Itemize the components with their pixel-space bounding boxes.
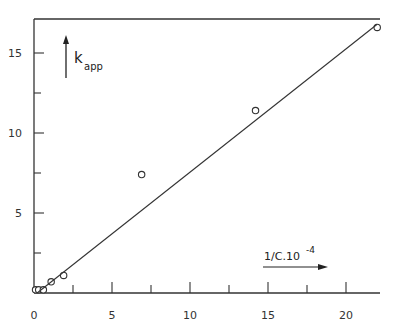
- y-arrowhead-icon: [63, 35, 69, 44]
- x-tick-label: 5: [109, 309, 116, 322]
- x-tick-label: 10: [183, 309, 197, 322]
- x-tick-label: 0: [31, 309, 38, 322]
- x-tick-label: 15: [261, 309, 275, 322]
- data-point-circle-icon: [252, 107, 258, 113]
- y-tick-label: 5: [15, 207, 22, 220]
- y-label-main: k: [74, 49, 83, 67]
- data-point-circle-icon: [374, 24, 380, 30]
- x-axis-label: 1/C.10 -4: [263, 245, 328, 270]
- y-label-sub: app: [84, 61, 103, 72]
- ticks: 0510152051015: [8, 47, 353, 322]
- x-tick-label: 20: [339, 309, 353, 322]
- x-label-main: 1/C.10: [264, 250, 300, 263]
- chart: 0510152051015 k app 1/C.10 -4: [0, 0, 394, 328]
- y-axis-label: k app: [63, 35, 103, 78]
- y-tick-label: 15: [8, 47, 22, 60]
- x-arrowhead-icon: [318, 264, 328, 270]
- y-tick-label: 10: [8, 127, 22, 140]
- x-label-exp: -4: [306, 245, 315, 255]
- data-point-circle-icon: [138, 171, 144, 177]
